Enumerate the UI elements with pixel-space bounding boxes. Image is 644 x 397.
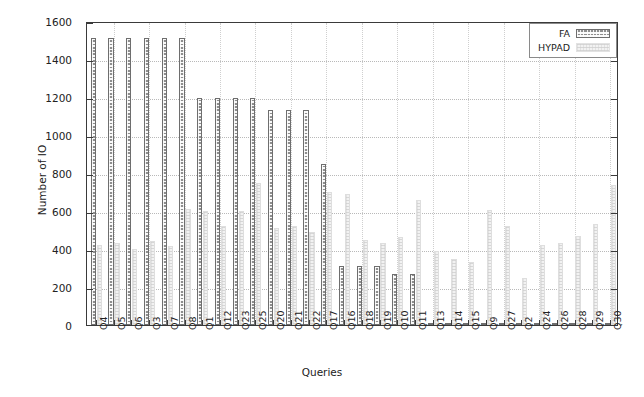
x-tick-mark	[309, 320, 310, 325]
x-tick-mark	[291, 320, 292, 325]
x-tick-mark-top	[185, 22, 186, 23]
bar-fa	[144, 38, 149, 325]
x-axis-tick-label: Q20	[276, 310, 286, 330]
x-axis-tick-label: Q19	[383, 310, 393, 330]
x-tick-mark-top	[397, 22, 398, 23]
x-tick-mark-top	[362, 22, 363, 23]
x-axis-tick-label: Q23	[241, 310, 251, 330]
x-axis-tick-label: Q5	[117, 316, 127, 330]
x-tick-mark-top	[114, 22, 115, 23]
bar-fa	[126, 38, 131, 325]
bar-hypad	[132, 249, 137, 325]
bar-fa	[162, 38, 167, 325]
x-tick-mark-top	[131, 22, 132, 23]
x-axis-tick-label: Q1	[205, 316, 215, 330]
x-axis-tick-label: Q11	[418, 310, 428, 330]
bar-fa	[374, 266, 379, 325]
y-tick-mark	[87, 137, 93, 138]
x-tick-mark	[362, 320, 363, 325]
y-tick-mark-right	[611, 99, 617, 100]
x-axis-tick-label: Q27	[507, 310, 517, 330]
x-axis-tick-label: Q7	[170, 316, 180, 330]
y-tick-mark-right	[611, 61, 617, 62]
x-axis-tick-label: Q10	[400, 310, 410, 330]
bar-hypad	[256, 183, 261, 325]
x-axis-title: Queries	[0, 366, 644, 378]
bar-fa	[268, 110, 273, 325]
chart-figure: Number of IO 020040060080010001200140016…	[0, 0, 644, 397]
bar-fa	[357, 266, 362, 325]
x-tick-mark-top	[167, 22, 168, 23]
y-axis-tick-label: 1400	[45, 55, 72, 66]
x-tick-mark	[433, 320, 434, 325]
x-tick-mark	[149, 320, 150, 325]
bar-hypad	[97, 245, 102, 325]
x-tick-mark-top	[291, 22, 292, 23]
bar-hypad	[114, 243, 119, 325]
y-tick-mark-right	[611, 175, 617, 176]
bar-hypad	[150, 241, 155, 325]
x-axis-tick-label: Q22	[312, 310, 322, 330]
legend-swatch-fa-icon	[576, 29, 610, 38]
y-tick-mark-right	[611, 137, 617, 138]
bar-fa	[197, 98, 202, 325]
x-tick-mark	[415, 320, 416, 325]
x-tick-mark	[575, 320, 576, 325]
bar-hypad	[487, 210, 492, 325]
x-tick-mark	[344, 320, 345, 325]
y-tick-mark	[87, 99, 93, 100]
x-tick-mark-top	[415, 22, 416, 23]
x-axis-tick-label: Q4	[99, 316, 109, 330]
bar-fa	[286, 110, 291, 325]
x-axis-tick-label: Q30	[613, 310, 623, 330]
y-axis-tick-label: 600	[52, 207, 72, 218]
bar-fa	[108, 38, 113, 325]
y-tick-mark	[87, 23, 93, 24]
y-axis-tick-label: 1600	[45, 17, 72, 28]
x-tick-mark	[96, 320, 97, 325]
x-axis-tick-label: Q6	[134, 316, 144, 330]
x-tick-mark-top	[433, 22, 434, 23]
y-axis-tick-label: 1000	[45, 131, 72, 142]
x-tick-mark	[114, 320, 115, 325]
y-axis-tick-labels: 02004006008001000120014001600	[0, 22, 80, 326]
bar-fa	[339, 266, 344, 325]
y-tick-mark	[87, 289, 93, 290]
x-tick-mark-top	[202, 22, 203, 23]
x-axis-tick-label: Q16	[347, 310, 357, 330]
bar-fa	[233, 98, 238, 325]
x-tick-mark	[504, 320, 505, 325]
x-axis-tick-label: Q24	[542, 310, 552, 330]
x-tick-mark-top	[468, 22, 469, 23]
x-tick-mark-top	[451, 22, 452, 23]
bar-fa	[410, 274, 415, 325]
bar-hypad	[345, 194, 350, 325]
x-axis-tick-label: Q29	[595, 310, 605, 330]
y-tick-mark	[87, 251, 93, 252]
bar-fa	[215, 98, 220, 325]
x-tick-mark-top	[255, 22, 256, 23]
y-tick-mark-right	[611, 251, 617, 252]
bar-hypad	[185, 209, 190, 325]
bar-hypad	[239, 211, 244, 325]
bar-hypad	[611, 185, 616, 325]
y-tick-mark	[87, 61, 93, 62]
y-tick-mark-right	[611, 289, 617, 290]
x-tick-mark-top	[326, 22, 327, 23]
x-axis-tick-label: Q18	[365, 310, 375, 330]
x-tick-mark	[380, 320, 381, 325]
legend-label-hypad: HYPAD	[538, 42, 570, 53]
bar-hypad	[168, 246, 173, 325]
y-axis-tick-label: 1200	[45, 93, 72, 104]
x-tick-mark-top	[149, 22, 150, 23]
x-tick-mark-top	[238, 22, 239, 23]
x-axis-tick-label: Q21	[294, 310, 304, 330]
bar-hypad	[327, 192, 332, 325]
x-axis-tick-label: Q12	[223, 310, 233, 330]
x-tick-mark	[167, 320, 168, 325]
x-tick-mark	[238, 320, 239, 325]
x-axis-tick-label: Q9	[489, 316, 499, 330]
x-axis-tick-label: Q26	[560, 310, 570, 330]
y-axis-tick-label: 200	[52, 283, 72, 294]
x-tick-mark-top	[96, 22, 97, 23]
